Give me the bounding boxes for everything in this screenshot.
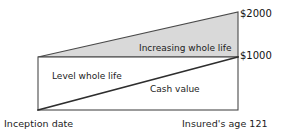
y-axis-label-2000: $2000 (240, 8, 272, 19)
x-axis-label-inception-date: Inception date (4, 118, 73, 129)
region-label-increasing-whole-life: Increasing whole life (139, 43, 232, 53)
region-label-level-whole-life: Level whole life (52, 71, 122, 81)
x-axis-label-insureds-age: Insured's age 121 (182, 118, 268, 129)
region-label-cash-value: Cash value (150, 84, 200, 94)
whole-life-insurance-diagram: $2000 $1000 Increasing whole life Level … (0, 0, 284, 134)
y-axis-label-1000: $1000 (240, 50, 272, 61)
chart-canvas (0, 0, 284, 134)
